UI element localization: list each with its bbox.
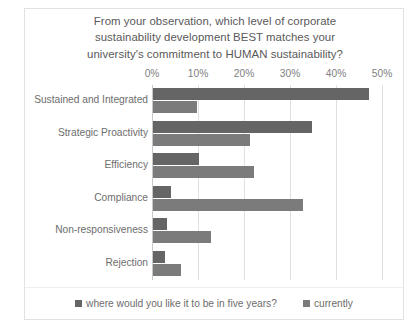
category-label-sustained-and-integrated: Sustained and Integrated (2, 94, 148, 105)
legend-separator (25, 287, 403, 288)
bar-group-strategic-proactivity (152, 118, 392, 151)
plot-area (152, 85, 392, 280)
bar (153, 218, 167, 230)
bar (153, 153, 199, 165)
y-axis-category-labels: Sustained and IntegratedStrategic Proact… (0, 85, 148, 280)
category-label-strategic-proactivity: Strategic Proactivity (2, 127, 148, 138)
chart-title-line-2: sustainability development BEST matches … (34, 29, 396, 45)
bar (153, 251, 165, 263)
bar-group-non-responsiveness (152, 215, 392, 248)
x-axis-tick-0: 0% (145, 68, 160, 79)
chart-legend: where would you like it to be in five ye… (24, 292, 404, 314)
bar (153, 101, 197, 113)
bar (153, 264, 181, 276)
bar (153, 88, 369, 100)
category-label-non-responsiveness: Non-responsiveness (2, 224, 148, 235)
category-label-efficiency: Efficiency (2, 159, 148, 170)
chart-card: From your observation, which level of co… (0, 0, 412, 329)
legend-label: currently (314, 298, 353, 309)
bar-group-sustained-and-integrated (152, 85, 392, 118)
chart-title-line-3: university's commitment to HUMAN sustain… (34, 46, 396, 62)
bar-group-efficiency (152, 150, 392, 183)
legend-label: where would you like it to be in five ye… (86, 298, 277, 309)
legend-swatch-icon (75, 300, 82, 307)
bar (153, 166, 254, 178)
bar (153, 199, 303, 211)
legend-item[interactable]: currently (303, 298, 353, 309)
x-axis-tick-20: 20% (234, 68, 254, 79)
bar (153, 231, 211, 243)
legend-item[interactable]: where would you like it to be in five ye… (75, 298, 277, 309)
x-axis-tick-10: 10% (188, 68, 208, 79)
bar (153, 186, 171, 198)
category-label-compliance: Compliance (2, 192, 148, 203)
bar-group-compliance (152, 183, 392, 216)
bar (153, 134, 250, 146)
chart-title-line-1: From your observation, which level of co… (34, 13, 396, 29)
x-axis-tick-30: 30% (280, 68, 300, 79)
x-axis-tick-50: 50% (372, 68, 392, 79)
x-axis-tick-labels: 0%10%20%30%40%50% (0, 68, 412, 82)
x-axis-tick-40: 40% (326, 68, 346, 79)
chart-title: From your observation, which level of co… (34, 13, 396, 62)
bar (153, 121, 312, 133)
category-label-rejection: Rejection (2, 257, 148, 268)
bar-group-rejection (152, 248, 392, 281)
legend-swatch-icon (303, 300, 310, 307)
